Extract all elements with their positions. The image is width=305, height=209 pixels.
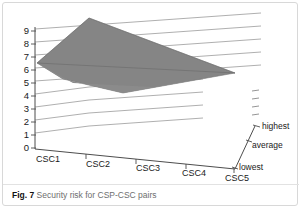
depth-tick-average: average bbox=[252, 140, 283, 150]
y-tick-7: 7 bbox=[24, 51, 29, 62]
y-tick-6: 6 bbox=[24, 64, 29, 75]
chart-depth-ticks bbox=[252, 90, 259, 115]
y-tick-0: 0 bbox=[24, 142, 29, 153]
x-tick-csc5: CSC5 bbox=[225, 173, 249, 183]
x-tick-csc1: CSC1 bbox=[36, 154, 60, 164]
y-tick-1: 1 bbox=[24, 129, 29, 140]
figure-caption-text: Security risk for CSP-CSC pairs bbox=[37, 190, 157, 200]
x-tick-csc4: CSC4 bbox=[182, 168, 206, 178]
x-tick-csc2: CSC2 bbox=[86, 159, 110, 169]
y-tick-2: 2 bbox=[24, 116, 29, 127]
depth-tick-highest: highest bbox=[262, 121, 290, 131]
figure-frame: 9 8 7 6 5 4 3 2 1 0 CSC1 CSC2 CSC3 CSC4 … bbox=[2, 2, 298, 206]
y-tick-8: 8 bbox=[24, 38, 29, 49]
figure-number: Fig. 7 bbox=[12, 190, 34, 200]
y-tick-5: 5 bbox=[24, 77, 29, 88]
y-tick-9: 9 bbox=[24, 25, 29, 36]
y-tick-4: 4 bbox=[24, 90, 29, 101]
chart-surface bbox=[37, 18, 235, 93]
depth-tick-lowest: lowest bbox=[239, 162, 264, 172]
chart-svg: 9 8 7 6 5 4 3 2 1 0 CSC1 CSC2 CSC3 CSC4 … bbox=[3, 3, 299, 183]
figure-caption: Fig. 7 Security risk for CSP-CSC pairs bbox=[3, 184, 299, 206]
chart-3d-surface-plot: 9 8 7 6 5 4 3 2 1 0 CSC1 CSC2 CSC3 CSC4 … bbox=[3, 3, 299, 183]
x-tick-csc3: CSC3 bbox=[136, 163, 160, 173]
y-tick-3: 3 bbox=[24, 103, 29, 114]
